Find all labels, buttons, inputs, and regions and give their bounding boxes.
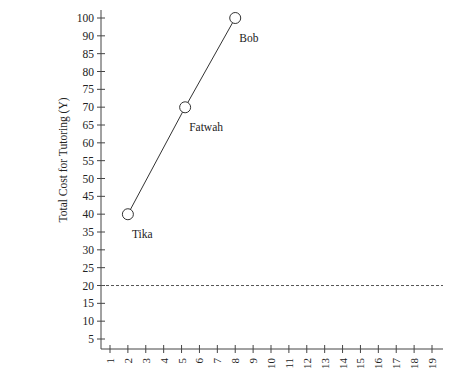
data-point-label: Fatwah <box>189 121 223 133</box>
y-tick-label: 55 <box>83 155 95 167</box>
x-tick-label: 7 <box>211 358 223 364</box>
y-tick-label: 85 <box>83 48 95 60</box>
x-tick-label: 1 <box>104 358 116 364</box>
x-tick-label: 13 <box>319 358 331 370</box>
x-axis: 12345678910111213141516171819 <box>101 345 443 369</box>
x-tick-label: 11 <box>283 358 295 369</box>
y-tick-label: 70 <box>83 101 95 113</box>
x-tick-label: 2 <box>122 358 134 364</box>
y-tick-label: 20 <box>83 280 95 292</box>
data-point-marker <box>230 13 241 24</box>
y-axis-title: Total Cost for Tutoring (Y) <box>57 97 70 222</box>
y-axis: 10090858075706560555045403530252015105 <box>77 10 105 349</box>
chart: 10090858075706560555045403530252015105 1… <box>0 0 459 386</box>
x-tick-label: 10 <box>265 358 277 370</box>
y-tick-label: 65 <box>83 119 95 131</box>
x-tick-label: 8 <box>229 358 241 364</box>
x-tick-label: 6 <box>193 358 205 364</box>
y-tick-label: 100 <box>77 12 95 24</box>
x-tick-label: 3 <box>140 358 152 364</box>
y-tick-label: 75 <box>83 83 95 95</box>
y-tick-label: 50 <box>83 173 95 185</box>
y-tick-label: 80 <box>83 66 95 78</box>
y-tick-label: 30 <box>83 244 95 256</box>
y-tick-label: 90 <box>83 30 95 42</box>
x-tick-label: 17 <box>390 358 402 370</box>
x-tick-label: 18 <box>408 358 420 370</box>
y-tick-label: 10 <box>83 315 95 327</box>
y-tick-label: 35 <box>83 226 95 238</box>
x-tick-label: 15 <box>354 358 366 370</box>
data-point-label: Bob <box>239 32 258 44</box>
y-tick-label: 60 <box>83 137 95 149</box>
y-tick-label: 40 <box>83 208 95 220</box>
y-tick-label: 5 <box>88 333 94 345</box>
data-point-marker <box>122 209 133 220</box>
x-tick-label: 12 <box>301 358 313 369</box>
x-tick-label: 4 <box>158 358 170 364</box>
data-point-marker <box>180 102 191 113</box>
data-point-label: Tika <box>132 228 153 240</box>
data-series: TikaFatwahBob <box>122 13 258 241</box>
series-line <box>128 18 235 214</box>
y-tick-label: 15 <box>83 297 95 309</box>
x-tick-label: 5 <box>176 358 188 364</box>
x-tick-label: 19 <box>426 358 438 370</box>
x-tick-label: 14 <box>337 358 349 370</box>
y-tick-label: 45 <box>83 190 95 202</box>
x-tick-label: 16 <box>372 358 384 370</box>
y-tick-label: 25 <box>83 262 95 274</box>
x-tick-label: 9 <box>247 358 259 364</box>
